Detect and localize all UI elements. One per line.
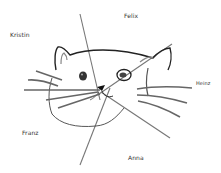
name-label-franz: Franz	[22, 129, 39, 136]
drawing-canvas: Felix Kristin Heinz Franz Anna	[0, 0, 221, 173]
cat-left-eye-highlight	[81, 74, 83, 76]
name-label-heinz: Heinz	[196, 80, 211, 86]
whisker-left-4	[58, 94, 100, 108]
whisker-left-0	[28, 80, 58, 86]
cat-right-cheek	[147, 68, 149, 96]
name-label-felix: Felix	[124, 12, 138, 19]
whisker-right-3	[138, 101, 180, 117]
whisker-right-1	[137, 87, 192, 89]
name-label-anna: Anna	[128, 154, 144, 161]
cat-right-eye-pupil	[120, 73, 127, 78]
whisker-left-3	[46, 92, 98, 100]
cat-sketch	[0, 0, 221, 173]
cat-left-eye	[79, 72, 87, 81]
radial-line-felix-anna	[80, 14, 100, 100]
cat-head-outline	[55, 47, 171, 70]
cat-jaw-outline	[49, 78, 124, 127]
whisker-left-1	[36, 71, 62, 80]
radial-line-anna	[101, 92, 170, 138]
name-label-kristin: Kristin	[10, 31, 30, 38]
cat-left-ear-inner	[61, 53, 67, 64]
